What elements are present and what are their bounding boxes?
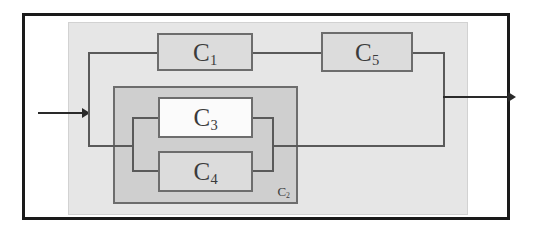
diagram-canvas: Reliability block diagram of a system wi… [0, 0, 536, 235]
wire-left-to-c1 [88, 52, 158, 54]
input-arrow-line [38, 112, 86, 114]
block-c1[interactable]: C1 [157, 33, 253, 71]
wire-c2bus-to-c3 [132, 117, 160, 119]
block-c5[interactable]: C5 [321, 32, 413, 72]
right-junction-bus [443, 52, 445, 147]
wire-left-to-c2 [88, 145, 114, 147]
block-c5-label: C5 [355, 40, 379, 65]
wire-c1-to-c5 [252, 52, 322, 54]
output-arrow-head [508, 92, 516, 102]
block-c3[interactable]: C3 [158, 97, 253, 138]
subsystem-c2-label: C2 [277, 184, 290, 200]
wire-c2-entry [113, 145, 134, 147]
wire-c3-to-c2bus [251, 117, 274, 119]
output-arrow-line [443, 96, 513, 98]
diagram-title: Reliability block diagram of a system wi… [0, 21, 1, 22]
block-c4-label: C4 [194, 159, 218, 184]
wire-c5-to-right-bus [412, 52, 445, 54]
wire-c2bus-to-c4 [132, 170, 160, 172]
block-c4[interactable]: C4 [158, 151, 253, 192]
wire-c4-to-c2bus [251, 170, 274, 172]
left-junction-bus [88, 52, 90, 146]
block-c1-label: C1 [193, 40, 217, 65]
block-c3-label: C3 [194, 105, 218, 130]
wire-c2-exit [272, 145, 298, 147]
wire-c2-to-right-bus [297, 145, 445, 147]
